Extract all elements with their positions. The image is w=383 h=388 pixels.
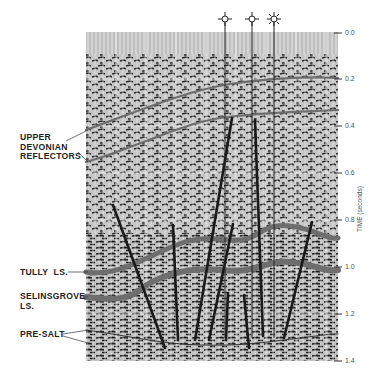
label-selinsgrove-ls: SELINSGROVE LS. [20, 292, 85, 311]
tick-1-2: 1.2 [345, 310, 355, 317]
tick-0-2: 0.2 [345, 75, 355, 82]
label-tully-ls: TULLY LS. [20, 268, 68, 278]
tick-0-4: 0.4 [345, 122, 355, 129]
tick-0-8: 0.8 [345, 216, 355, 223]
tick-0-0: 0.0 [345, 29, 355, 36]
seismic-traces [86, 32, 338, 361]
tick-0-6: 0.6 [345, 169, 355, 176]
tick-1-0: 1.0 [345, 263, 355, 270]
axis-title: TIME (seconds) [356, 186, 363, 232]
tick-1-4: 1.4 [345, 357, 355, 364]
label-pre-salt: PRE-SALT [20, 330, 65, 340]
label-upper-devonian-reflectors: UPPER DEVONIAN REFLECTORS [20, 133, 81, 162]
